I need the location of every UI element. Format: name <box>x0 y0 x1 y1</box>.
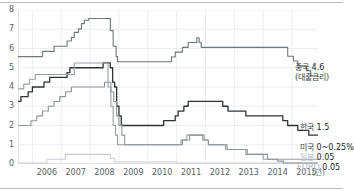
chart-svg <box>18 10 318 164</box>
series-line-0 <box>18 18 318 75</box>
x-tick-label: 2006 <box>32 168 62 177</box>
series-line-4 <box>18 82 318 163</box>
x-tick-label: 2013 <box>234 168 264 177</box>
x-tick-label: 2012 <box>205 168 235 177</box>
legend-euro-name: EURO <box>297 163 320 172</box>
legend-japan-name: 일본 <box>300 153 314 162</box>
legend-china-note: (대출금리) <box>295 73 329 83</box>
y-tick-label: 6 <box>2 45 14 53</box>
plot-area <box>18 10 318 164</box>
top-border <box>0 2 343 3</box>
legend-us-name: 미국 <box>300 143 314 152</box>
legend-japan-value: 0.05 <box>317 153 335 162</box>
x-tick-label: 2008 <box>90 168 120 177</box>
x-tick-label: 2009 <box>118 168 148 177</box>
y-tick-label: 5 <box>2 64 14 72</box>
bottom-border <box>0 188 343 189</box>
legend-us: 미국 0~0.25% <box>300 143 354 153</box>
legend-china: 중국 4.6 <box>295 63 324 73</box>
x-tick-label: 2014 <box>263 168 293 177</box>
x-tick-label: 2007 <box>61 168 91 177</box>
legend-japan: 일본 0.05 <box>300 153 334 163</box>
y-tick-label: 7 <box>2 25 14 33</box>
legend-korea: 한국 1.5 <box>300 123 329 133</box>
legend-china-value: 4.6 <box>312 63 325 72</box>
y-tick-label: 4 <box>2 83 14 91</box>
legend-korea-name: 한국 <box>300 123 314 132</box>
series-line-1 <box>18 63 318 135</box>
legend-euro: EURO 0.05 <box>297 163 340 173</box>
x-tick-label: 2010 <box>147 168 177 177</box>
y-tick-label: 1 <box>2 141 14 149</box>
y-tick-label: 8 <box>2 6 14 14</box>
y-tick-label: 3 <box>2 102 14 110</box>
y-tick-label: 2 <box>2 122 14 130</box>
legend-china-name: 중국 <box>295 63 309 72</box>
legend-korea-value: 1.5 <box>317 123 330 132</box>
legend-euro-value: 0.05 <box>322 163 340 172</box>
y-tick-label: 0 <box>2 160 14 168</box>
x-tick-label: 2011 <box>176 168 206 177</box>
legend-us-value: 0~0.25% <box>317 143 354 152</box>
